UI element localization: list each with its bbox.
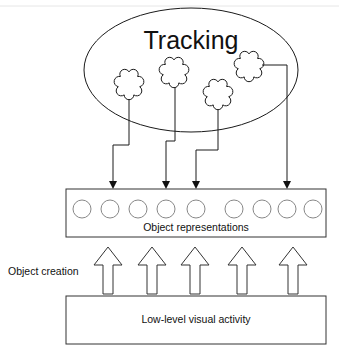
object-representations-label: Object representations [66,221,326,233]
tracked-object-cloud-2 [159,57,189,87]
connector-line-4 [262,65,287,183]
arrowhead-2 [162,181,170,189]
tracking-title: Tracking [0,26,339,55]
tracked-object-cloud-1 [114,69,144,99]
tracked-object-cloud-3 [203,79,233,109]
object-slot-1 [73,200,91,218]
arrowhead-4 [283,181,291,189]
tracked-object-cloud-4 [234,51,264,81]
object-slot-2 [101,200,119,218]
object-slot-4 [157,200,175,218]
object-creation-label: Object creation [8,265,79,277]
object-slot-8 [278,200,296,218]
object-slot-7 [253,200,271,218]
object-slot-3 [129,200,147,218]
object-creation-arrow-2 [138,247,166,294]
object-slot-5 [187,200,205,218]
object-slot-6 [225,200,243,218]
object-slot-9 [304,200,322,218]
connector-line-2 [166,87,175,183]
object-creation-arrow-4 [228,247,256,294]
object-creation-arrow-5 [279,247,307,294]
arrowhead-1 [109,181,117,189]
arrowhead-3 [192,181,200,189]
connector-line-3 [196,110,218,183]
object-creation-arrow-3 [181,247,209,294]
object-creation-arrow-1 [94,247,122,294]
connector-line-1 [113,99,129,183]
low-level-visual-activity-label: Low-level visual activity [66,313,326,325]
